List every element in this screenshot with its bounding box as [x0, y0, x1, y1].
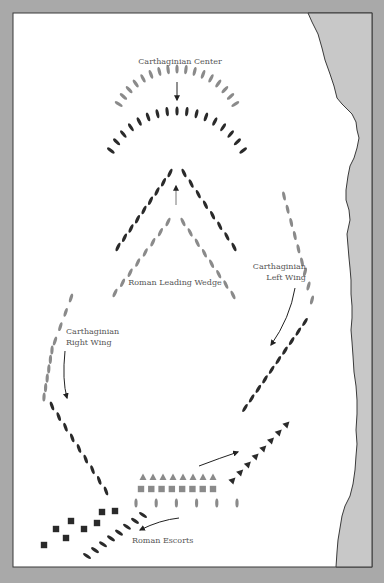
carthaginian-center-back-ship [175, 106, 178, 115]
roman-rear-line-ship [175, 498, 178, 507]
roman-transports-squares-square [169, 486, 175, 492]
roman-escorts-squares-square [112, 508, 118, 514]
roman-transports-squares-square [138, 486, 144, 492]
roman-transports-squares-square [189, 486, 195, 492]
roman-rear-line-ship [215, 498, 218, 507]
roman-escorts-squares-square [94, 520, 100, 526]
roman-rear-line-ship [155, 498, 158, 507]
label-roman-leading-wedge: Roman Leading Wedge [128, 278, 222, 287]
label-right-wing-1: Carthaginian [66, 327, 119, 336]
roman-escorts-squares-square [99, 509, 105, 515]
roman-escorts-squares-square [63, 535, 69, 541]
label-right-wing-2: Right Wing [66, 338, 112, 347]
roman-transports-squares-square [158, 486, 164, 492]
map-panel [13, 13, 372, 567]
roman-transports-squares-square [148, 486, 154, 492]
label-left-wing-1: Carthaginian [253, 262, 306, 271]
label-left-wing-2: Left Wing [266, 273, 306, 282]
roman-transports-squares-square [200, 486, 206, 492]
roman-escorts-squares-square [53, 526, 59, 532]
roman-escorts-squares-square [68, 518, 74, 524]
roman-escorts-squares-square [41, 542, 47, 548]
label-carthaginian-center: Carthaginian Center [138, 57, 222, 66]
roman-rear-line-ship [195, 498, 198, 507]
label-roman-escorts: Roman Escorts [132, 536, 193, 545]
battle-map: Carthaginian Center Roman Leading Wedge … [0, 0, 384, 583]
roman-transports-squares-square [210, 486, 216, 492]
roman-escorts-squares-square [81, 526, 87, 532]
roman-transports-squares-square [179, 486, 185, 492]
roman-rear-line-ship [134, 498, 137, 507]
roman-rear-line-ship [235, 498, 238, 507]
